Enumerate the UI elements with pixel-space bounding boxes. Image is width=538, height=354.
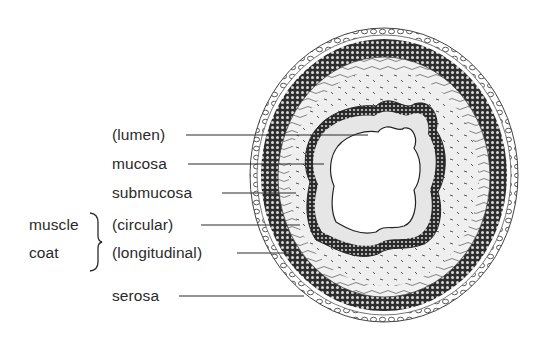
label-serosa: serosa	[112, 287, 159, 305]
label-muscle-coat-line2: coat	[29, 244, 59, 262]
label-circular: (circular)	[112, 216, 173, 234]
label-submucosa: submucosa	[112, 184, 192, 202]
label-mucosa: mucosa	[112, 155, 167, 173]
tract-cross-section-diagram	[0, 0, 538, 354]
label-longitudinal: (longitudinal)	[112, 244, 202, 262]
label-muscle-coat-line1: muscle	[29, 216, 79, 234]
label-lumen: (lumen)	[112, 126, 165, 144]
muscle-coat-brace	[90, 213, 102, 271]
lumen	[331, 127, 421, 233]
